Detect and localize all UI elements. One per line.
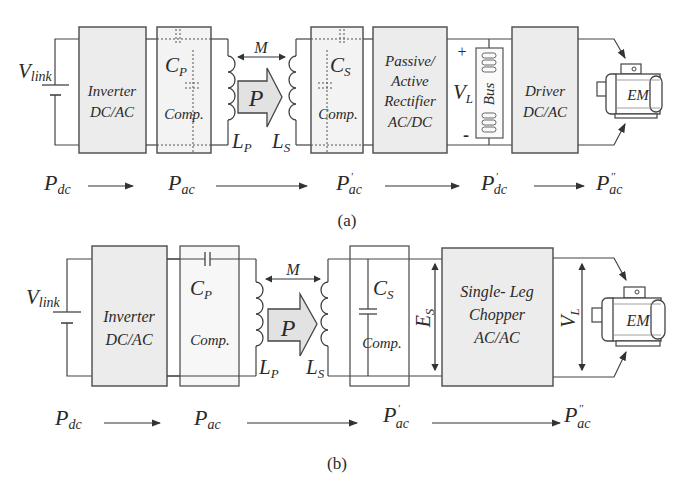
mutual-inductance-a: M	[238, 39, 285, 57]
svg-text:P: P	[280, 315, 296, 341]
vlink-label-b: Vlink	[26, 285, 61, 310]
svg-text:EM: EM	[626, 87, 650, 103]
ls-label-b: LS	[305, 355, 325, 381]
power-transfer-arrow-a: P	[238, 68, 282, 127]
electric-motor-b: EM	[592, 287, 665, 346]
svg-text:Comp.: Comp.	[318, 106, 358, 122]
svg-text:Rectifier: Rectifier	[383, 93, 436, 109]
svg-text:Pdc: Pdc	[54, 405, 82, 432]
svg-text:DC/AC: DC/AC	[89, 104, 135, 120]
svg-text:Pac: Pac	[193, 405, 221, 432]
svg-text:+: +	[457, 43, 468, 60]
vl-label-a: VL	[453, 80, 473, 106]
svg-text:Active: Active	[390, 73, 429, 89]
svg-text:Pac: Pac	[167, 170, 195, 197]
battery-vlink-b: Vlink	[26, 259, 92, 376]
svg-text:P'ac: P'ac	[335, 170, 363, 197]
inverter-block-a: Inverter DC/AC	[79, 27, 146, 153]
vlink-label-a: Vlink	[18, 59, 53, 84]
svg-text:Driver: Driver	[524, 83, 565, 99]
svg-text:Comp.: Comp.	[190, 332, 230, 348]
svg-text:Inverter: Inverter	[87, 83, 136, 99]
driver-block-a: Driver DC/AC	[512, 27, 578, 153]
power-transfer-arrow-b: P	[268, 294, 317, 356]
ls-label-a: LS	[271, 129, 291, 155]
dc-bus-a: Bus + - VL	[447, 39, 512, 145]
svg-text:ES: ES	[412, 308, 437, 328]
svg-text:Pdc: Pdc	[43, 170, 71, 197]
svg-text:P''ac: P''ac	[595, 170, 623, 197]
svg-text:Bus: Bus	[481, 83, 497, 106]
svg-text:P'dc: P'dc	[480, 170, 508, 197]
caption-b: (b)	[327, 454, 347, 473]
mutual-inductance-b: M	[266, 261, 320, 279]
es-voltage-b: ES	[412, 264, 437, 370]
svg-text:DC/AC: DC/AC	[104, 331, 152, 348]
svg-text:Comp.: Comp.	[362, 335, 402, 351]
svg-text:-: -	[463, 125, 469, 145]
cs-label-b: CS	[373, 276, 394, 302]
svg-text:Single- Leg: Single- Leg	[460, 283, 533, 301]
power-flow-b: Pdc Pac P'ac P''ac	[54, 402, 591, 432]
lp-label-a: LP	[231, 129, 252, 155]
svg-text:Inverter: Inverter	[102, 308, 155, 325]
figure-a: Vlink Inverter DC/AC CP Comp.	[18, 27, 662, 230]
chopper-block-b: Single- Leg Chopper AC/AC	[442, 248, 553, 386]
primary-compensation-b: CP Comp.	[167, 246, 256, 386]
battery-vlink-a: Vlink	[18, 39, 79, 145]
power-flow-a: Pdc Pac P'ac P'dc P''ac	[43, 170, 623, 197]
wireless-power-transfer-diagram: Vlink Inverter DC/AC CP Comp.	[0, 0, 698, 503]
svg-text:P'ac: P'ac	[382, 402, 410, 431]
svg-text:Passive/: Passive/	[384, 53, 437, 69]
svg-text:Chopper: Chopper	[469, 306, 526, 324]
svg-text:P: P	[248, 85, 264, 111]
inverter-block-b: Inverter DC/AC	[92, 246, 167, 386]
svg-text:DC/AC: DC/AC	[522, 104, 568, 120]
svg-text:M: M	[253, 39, 269, 56]
caption-a: (a)	[338, 211, 357, 230]
svg-text:M: M	[285, 261, 301, 278]
svg-text:VL: VL	[557, 308, 582, 327]
lp-label-b: LP	[258, 355, 279, 381]
svg-text:P''ac: P''ac	[563, 402, 591, 431]
svg-text:AC/AC: AC/AC	[473, 329, 520, 346]
electric-motor-a: EM	[597, 64, 662, 118]
vl-voltage-b: VL	[557, 264, 582, 370]
rectifier-block-a: Passive/ Active Rectifier AC/DC	[373, 27, 447, 153]
primary-compensation-a: CP Comp.	[157, 27, 211, 153]
secondary-compensation-b: CS Comp.	[350, 246, 409, 386]
svg-text:Comp.: Comp.	[164, 106, 204, 122]
secondary-compensation-a: CS Comp.	[311, 27, 363, 153]
svg-text:EM: EM	[625, 312, 651, 329]
figure-b: Vlink Inverter DC/AC CP Comp. LP	[26, 246, 665, 473]
svg-text:AC/DC: AC/DC	[387, 114, 433, 130]
